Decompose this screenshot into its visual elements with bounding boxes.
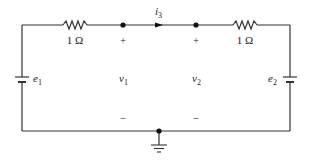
v2-plus-sign: + <box>193 35 199 46</box>
node-v2-dot <box>193 22 198 27</box>
ground-icon <box>151 145 167 152</box>
v1-plus-sign: + <box>120 35 126 46</box>
battery-e2-icon <box>283 77 297 82</box>
node-v1-dot <box>120 22 125 27</box>
resistor-r1-label: 1 Ω <box>67 34 83 46</box>
v2-label: v2 <box>192 72 201 87</box>
source-e1-label: e1 <box>33 72 42 87</box>
resistor-r1-icon <box>63 21 87 29</box>
source-e2-label: e2 <box>268 72 277 87</box>
current-arrow-icon <box>155 23 163 28</box>
node-ground-dot <box>156 128 161 133</box>
battery-e1-icon <box>15 77 29 82</box>
v1-label: v1 <box>119 72 128 87</box>
circuit-diagram: 1 Ω 1 Ω i3 e1 e2 + + v1 v2 – – <box>0 0 313 160</box>
current-label: i3 <box>155 5 162 20</box>
resistor-r2-icon <box>233 21 257 29</box>
v2-minus-sign: – <box>193 112 200 123</box>
resistor-r2-label: 1 Ω <box>237 34 253 46</box>
v1-minus-sign: – <box>120 112 127 123</box>
